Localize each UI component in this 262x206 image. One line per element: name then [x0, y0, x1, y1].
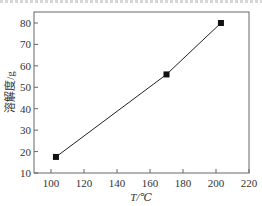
data-point-marker [218, 20, 224, 26]
x-tick-label: 220 [241, 177, 258, 189]
y-tick-label: 10 [20, 167, 32, 179]
x-tick-label: 180 [175, 177, 192, 189]
data-point-marker [53, 154, 59, 160]
y-axis-ticks: 1020304050607080 [20, 17, 38, 179]
x-tick-label: 160 [142, 177, 159, 189]
x-axis-label: T/℃ [130, 191, 152, 203]
x-tick-label: 100 [43, 177, 60, 189]
y-tick-label: 50 [20, 81, 32, 93]
chart: 1020304050607080 100120140160180200220 T… [0, 0, 262, 206]
x-axis-ticks: 100120140160180200220 [43, 169, 258, 189]
y-tick-label: 80 [20, 17, 32, 29]
data-line [56, 23, 221, 157]
y-tick-label: 30 [20, 124, 32, 136]
y-tick-label: 70 [20, 38, 32, 50]
x-tick-label: 140 [109, 177, 126, 189]
y-tick-label: 60 [20, 60, 32, 72]
data-markers [53, 20, 224, 160]
x-tick-label: 200 [208, 177, 225, 189]
data-point-marker [164, 71, 170, 77]
x-tick-label: 120 [76, 177, 93, 189]
y-tick-label: 40 [20, 103, 32, 115]
y-axis-label: 溶解度/g [3, 71, 16, 113]
y-tick-label: 20 [20, 146, 32, 158]
